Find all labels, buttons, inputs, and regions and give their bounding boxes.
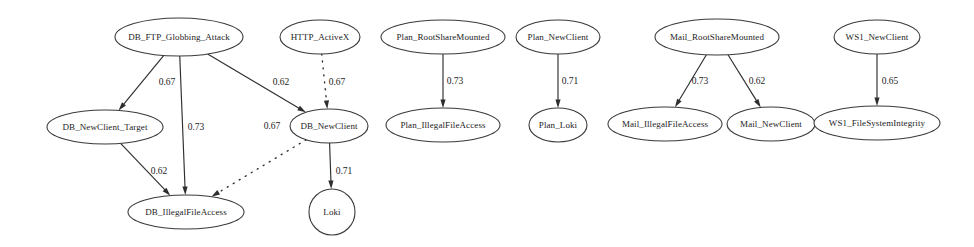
graph-svg: DB_FTP_Globbing_AttackHTTP_ActiveXPlan_R… [0, 0, 974, 247]
node-db_illegalfileaccess[interactable]: DB_IllegalFileAccess [128, 195, 244, 229]
edge-weight-label: 0.62 [151, 166, 168, 176]
edge-http_activex-to-db_newclient [322, 54, 327, 102]
edge-weight-label: 0.73 [447, 76, 464, 86]
node-label: DB_NewClient [300, 121, 358, 131]
node-db_ftp_globbing_attack[interactable]: DB_FTP_Globbing_Attack [115, 18, 243, 56]
node-http_activex[interactable]: HTTP_ActiveX [280, 20, 360, 54]
node-label: HTTP_ActiveX [291, 32, 350, 42]
node-plan_newclient[interactable]: Plan_NewClient [516, 20, 600, 54]
node-label: DB_NewClient_Target [62, 122, 147, 132]
node-label: DB_FTP_Globbing_Attack [128, 32, 230, 42]
attack-graph-canvas: DB_FTP_Globbing_AttackHTTP_ActiveXPlan_R… [0, 0, 974, 247]
node-plan_rootsharemounted[interactable]: Plan_RootShareMounted [381, 20, 505, 54]
node-label: Plan_IllegalFileAccess [400, 120, 486, 130]
node-label: Plan_NewClient [528, 32, 589, 42]
edge-weight-label: 0.62 [749, 76, 766, 86]
node-label: Mail_RootShareMounted [670, 32, 764, 42]
arrowhead-plan_rootsharemounted-to-plan_illegalfileaccess [440, 100, 445, 109]
edge-weight-label: 0.71 [562, 76, 579, 86]
node-label: DB_IllegalFileAccess [145, 207, 227, 217]
node-db_newclient[interactable]: DB_NewClient [290, 109, 368, 143]
node-plan_illegalfileaccess[interactable]: Plan_IllegalFileAccess [386, 108, 500, 142]
node-label: WS1_FileSystemIntegrity [829, 118, 926, 128]
edge-weight-label: 0.67 [159, 77, 176, 87]
arrowhead-db_ftp_globbing_attack-to-db_newclient [297, 106, 306, 113]
arrowhead-mail_rootsharemounted-to-mail_newclient [754, 99, 761, 108]
edge-db_newclient-to-db_illegalfileaccess [218, 140, 306, 193]
arrowhead-db_newclient-to-loki [328, 180, 333, 189]
node-loki[interactable]: Loki [309, 189, 355, 235]
arrowhead-mail_rootsharemounted-to-mail_illegalfileaccess [675, 99, 682, 108]
edge-weight-label: 0.62 [273, 77, 290, 87]
edge-db_newclient-to-loki [330, 143, 331, 182]
arrowhead-http_activex-to-db_newclient [324, 100, 329, 109]
edge-weight-label: 0.73 [188, 122, 205, 132]
edge-weight-label: 0.73 [692, 76, 709, 86]
node-mail_illegalfileaccess[interactable]: Mail_IllegalFileAccess [608, 107, 722, 141]
edge-weight-label: 0.65 [882, 76, 899, 86]
node-mail_newclient[interactable]: Mail_NewClient [727, 107, 815, 141]
edge-weight-label: 0.67 [329, 77, 346, 87]
node-label: WS1_NewClient [846, 32, 909, 42]
node-ws1_filesystemintegrity[interactable]: WS1_FileSystemIntegrity [814, 106, 940, 140]
node-label: Mail_IllegalFileAccess [622, 119, 709, 129]
nodes-layer: DB_FTP_Globbing_AttackHTTP_ActiveXPlan_R… [47, 18, 940, 235]
node-label: Loki [323, 207, 341, 217]
arrowhead-plan_newclient-to-plan_loki [555, 100, 560, 109]
node-plan_loki[interactable]: Plan_Loki [529, 108, 587, 142]
node-label: Plan_Loki [539, 120, 578, 130]
node-db_newclient_target[interactable]: DB_NewClient_Target [47, 110, 163, 144]
arrowhead-db_newclient-to-db_illegalfileaccess [211, 190, 220, 197]
edge-weight-label: 0.71 [336, 166, 353, 176]
edge-db_ftp_globbing_attack-to-db_illegalfileaccess [180, 56, 185, 188]
node-label: Plan_RootShareMounted [396, 32, 489, 42]
node-mail_rootsharemounted[interactable]: Mail_RootShareMounted [655, 19, 779, 55]
arrowhead-db_ftp_globbing_attack-to-db_illegalfileaccess [182, 186, 187, 195]
arrowhead-ws1_newclient-to-ws1_filesystemintegrity [874, 98, 879, 107]
node-label: Mail_NewClient [740, 119, 802, 129]
node-ws1_newclient[interactable]: WS1_NewClient [834, 20, 920, 54]
edge-weight-label: 0.67 [264, 121, 281, 131]
